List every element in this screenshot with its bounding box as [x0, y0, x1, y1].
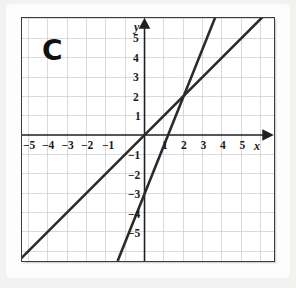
line-slope-1 [22, 18, 274, 260]
line-slope-2.5 [118, 18, 219, 261]
coordinate-plane: −5 −4 −3 −2 −1 1 2 3 4 5 5 4 3 2 1 −1 −2… [21, 17, 275, 262]
figure-page: −5 −4 −3 −2 −1 1 2 3 4 5 5 4 3 2 1 −1 −2… [0, 0, 296, 288]
plotted-lines [22, 18, 274, 261]
